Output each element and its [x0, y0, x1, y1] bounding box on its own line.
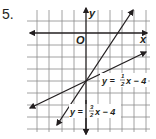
origin-label: O — [76, 34, 85, 46]
svg-text:x − 4: x − 4 — [125, 76, 146, 86]
svg-text:y =: y = — [69, 107, 84, 117]
equation-label-three-halves: y = 3 2 x − 4 — [69, 104, 121, 118]
y-axis-label: y — [88, 7, 96, 19]
coordinate-graph: y x O y = 1 2 x − 4 y = 3 2 x − 4 — [0, 0, 156, 139]
equation-label-half: y = 1 2 x − 4 — [100, 73, 148, 87]
svg-text:y =: y = — [101, 76, 116, 86]
svg-text:2: 2 — [120, 81, 125, 87]
svg-text:x − 4: x − 4 — [94, 107, 115, 117]
svg-text:2: 2 — [89, 112, 94, 118]
x-axis-label: x — [139, 33, 147, 45]
